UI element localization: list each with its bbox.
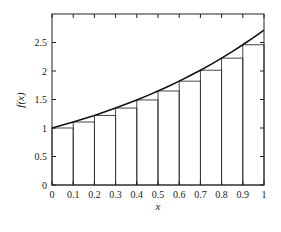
y-tick-label: 1.5 [35,94,48,105]
x-tick-label: 0.7 [194,189,207,200]
riemann-bar [137,100,158,185]
riemann-bar [243,45,264,185]
riemann-bar [158,91,179,185]
x-tick-label: 0.9 [237,189,250,200]
x-tick-label: 0.2 [88,189,101,200]
y-axis-ticks: 00.511.522.5 [35,37,265,191]
x-tick-label: 1 [262,189,267,200]
y-tick-label: 0.5 [35,151,48,162]
y-tick-label: 0 [42,180,47,191]
x-tick-label: 0.6 [173,189,186,200]
x-tick-label: 0.5 [152,189,165,200]
y-tick-label: 2.5 [35,37,48,48]
x-tick-label: 0.8 [215,189,228,200]
y-tick-label: 1 [42,123,47,134]
x-tick-label: 0.1 [67,189,80,200]
y-tick-label: 2 [42,66,47,77]
riemann-bar [73,122,94,185]
riemann-bar [222,58,243,185]
riemann-bar [94,115,115,185]
x-tick-label: 0.3 [109,189,122,200]
riemann-bar [116,108,137,185]
x-tick-label: 0.4 [131,189,144,200]
riemann-bar [200,70,221,185]
bars-layer [52,45,264,185]
x-axis-label: x [155,200,161,212]
riemann-sum-chart: 00.10.20.30.40.50.60.70.80.91 00.511.522… [0,0,281,232]
x-tick-label: 0 [50,189,55,200]
riemann-bar [179,81,200,185]
y-axis-label: f(x) [14,92,27,108]
